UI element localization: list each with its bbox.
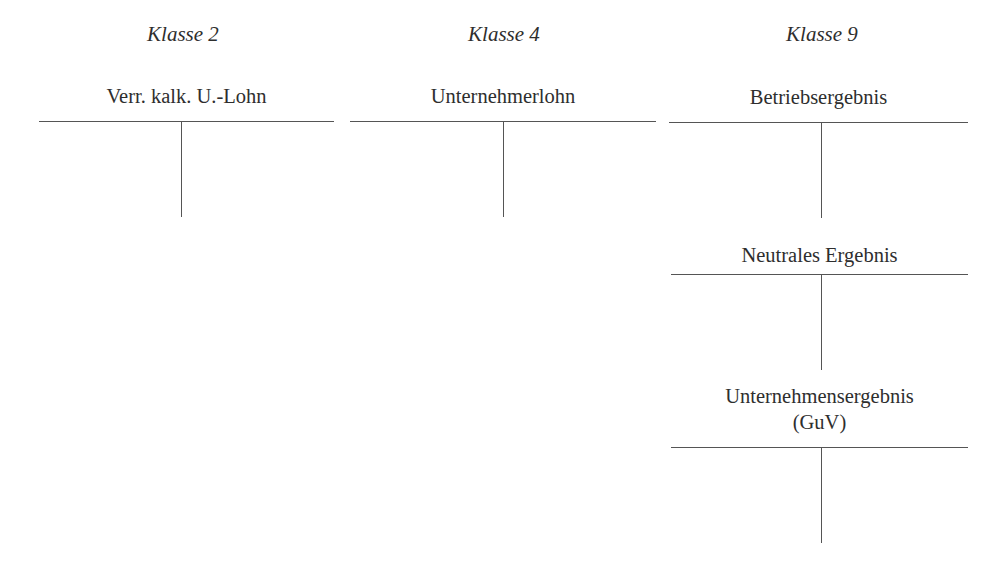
account-horizontal-line: [671, 447, 968, 448]
t-account-unternehmensergebnis-guv: Unternehmensergebnis (GuV): [671, 0, 968, 560]
account-title: Verr. kalk. U.-Lohn: [39, 84, 334, 109]
account-vertical-line: [821, 447, 822, 543]
account-title-line-1: Unternehmensergebnis: [671, 384, 968, 409]
account-vertical-line: [503, 121, 504, 217]
account-vertical-line: [181, 121, 182, 217]
account-horizontal-line: [39, 121, 334, 122]
account-title-line-2: (GuV): [671, 410, 968, 435]
account-title: Unternehmerlohn: [350, 84, 656, 109]
t-account-unternehmerlohn: Unternehmerlohn: [350, 0, 656, 230]
t-account-verr-kalk-u-lohn: Verr. kalk. U.-Lohn: [39, 0, 334, 230]
